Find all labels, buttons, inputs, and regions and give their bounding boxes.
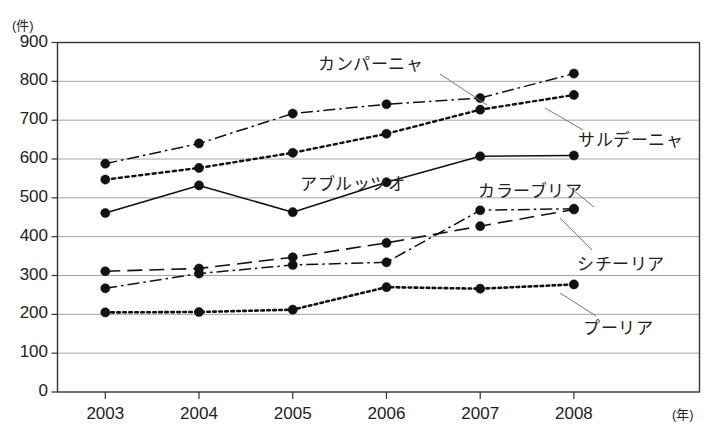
x-axis-ticks [105,392,574,399]
series-label-sardegna: サルデーニャ [578,126,683,151]
series-label-abruzzo: アブルッツオ [300,170,405,195]
data-point-marker [476,152,485,161]
series-label-puglia: プーリア [583,314,653,339]
data-point-marker [194,269,203,278]
data-point-marker [476,284,485,293]
data-point-marker [101,284,110,293]
data-point-marker [288,208,297,217]
x-tick-label: 2006 [346,404,426,424]
y-tick-label: 600 [2,148,48,168]
data-point-marker [101,208,110,217]
y-tick-label: 400 [2,226,48,246]
series-line [105,74,574,164]
data-point-marker [194,163,203,172]
x-tick-label: 2003 [65,404,145,424]
line-chart: (件) 0100200300400500600700800900 2003200… [0,0,708,435]
data-point-marker [288,148,297,157]
data-point-marker [569,90,578,99]
series-line [105,209,574,289]
data-point-marker [194,181,203,190]
y-tick-label: 900 [2,32,48,52]
data-point-marker [569,204,578,213]
data-point-marker [288,305,297,314]
y-tick-label: 700 [2,109,48,129]
data-point-marker [194,139,203,148]
data-point-marker [194,307,203,316]
x-tick-label: 2008 [534,404,614,424]
data-point-marker [101,159,110,168]
x-axis-unit-label: (年) [672,404,694,423]
data-point-marker [382,238,391,247]
leader-line [560,293,596,316]
y-tick-label: 300 [2,265,48,285]
data-point-marker [569,151,578,160]
x-tick-label: 2007 [440,404,520,424]
data-point-marker [382,283,391,292]
y-tick-label: 500 [2,187,48,207]
data-point-marker [101,308,110,317]
series-line [105,95,574,180]
series-line [105,284,574,312]
data-point-marker [476,105,485,114]
data-point-marker [476,206,485,215]
data-point-marker [476,222,485,231]
plot-border [58,43,700,393]
data-point-marker [101,267,110,276]
series-label-campania: カンパーニャ [318,50,423,75]
y-axis-ticks [52,43,58,393]
y-tick-label: 200 [2,303,48,323]
data-point-marker [288,260,297,269]
data-point-marker [288,109,297,118]
series-label-sicilia: シチーリア [577,250,665,275]
leader-line [560,218,592,250]
series-label-calabria: カラーブリア [478,177,582,202]
data-point-marker [382,258,391,267]
y-tick-label: 800 [2,70,48,90]
series-line [105,209,574,271]
data-point-marker [382,129,391,138]
x-tick-label: 2004 [159,404,239,424]
data-point-marker [382,100,391,109]
y-tick-label: 0 [2,381,48,401]
data-point-marker [569,69,578,78]
data-point-marker [101,175,110,184]
x-tick-label: 2005 [253,404,333,424]
data-point-marker [569,280,578,289]
y-tick-label: 100 [2,342,48,362]
